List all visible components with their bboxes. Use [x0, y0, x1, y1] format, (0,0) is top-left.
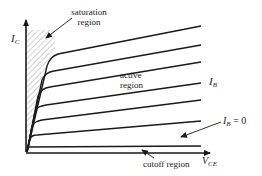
saturation-label-line2: region — [68, 17, 110, 27]
curve-ib-5 — [27, 45, 201, 152]
curve-ib-3 — [27, 83, 201, 152]
bjt-characteristic-diagram: IC saturation region active region IB IB… — [0, 0, 262, 176]
cutoff-region-label: cutoff region — [143, 159, 190, 169]
cutoff-label-text: cutoff region — [143, 159, 190, 169]
cutoff-pointer-arrow — [142, 150, 154, 158]
active-label-line2: region — [120, 80, 143, 90]
ib-label-sub: B — [213, 81, 217, 89]
saturation-region-label: saturation region — [68, 7, 110, 27]
ib-zero-pointer-arrow — [181, 122, 221, 137]
x-axis-label: VCE — [202, 156, 217, 169]
y-axis-label-sub: C — [15, 38, 20, 46]
saturation-label-line1: saturation — [68, 7, 110, 17]
ib-zero-label: IB = 0 — [223, 116, 246, 129]
ib-zero-label-eq: = 0 — [231, 115, 247, 126]
curve-ib-zero — [27, 146, 201, 147]
curve-ib-2 — [27, 100, 201, 152]
ib-label: IB — [209, 76, 217, 90]
curve-ib-4 — [27, 62, 201, 152]
active-label-line1: active — [120, 70, 143, 80]
y-axis-label: IC — [11, 33, 19, 47]
x-axis-label-sub: CE — [208, 160, 217, 168]
active-region-label: active region — [120, 70, 143, 90]
